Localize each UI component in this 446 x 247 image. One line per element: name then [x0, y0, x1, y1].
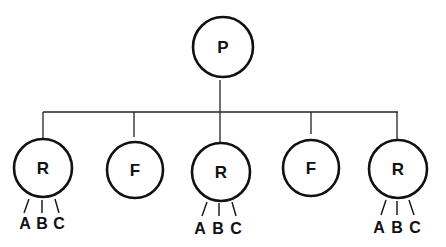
leaf-stub-line [409, 200, 414, 215]
child-node-label: R [215, 163, 227, 182]
child-node-f-1: F [107, 142, 163, 198]
leaf-group: A B C [19, 199, 65, 232]
child-node-label: F [306, 159, 316, 178]
child-node-label: F [130, 161, 140, 180]
leaf-stub-line [24, 199, 29, 213]
leaf-group: A B C [373, 200, 421, 236]
child-node-r-1: R A B C [14, 139, 72, 232]
tree-svg: P R A B C F R [0, 0, 446, 247]
leaf-label-c: C [409, 219, 421, 236]
leaf-stub-line [381, 200, 386, 215]
root-node-p: P [193, 17, 253, 77]
leaf-stub-line [232, 202, 236, 216]
leaf-label-a: A [194, 220, 206, 237]
leaf-label-c: C [230, 220, 242, 237]
leaf-stub-line [202, 202, 207, 216]
leaf-group: A B C [194, 202, 242, 237]
leaf-label-b: B [212, 220, 224, 237]
connectors [43, 80, 398, 143]
child-node-label: R [392, 160, 404, 179]
leaf-label-a: A [19, 215, 31, 232]
child-node-r-2: R A B C [192, 143, 250, 237]
child-nodes: R A B C F R A [14, 139, 427, 237]
child-node-r-3: R A B C [369, 140, 427, 236]
root-node-label: P [217, 38, 228, 57]
leaf-stub-line [55, 199, 59, 213]
child-node-f-2: F [283, 140, 339, 196]
child-connector-lines [43, 112, 397, 143]
child-node-label: R [37, 159, 49, 178]
leaf-label-c: C [53, 215, 65, 232]
org-tree-diagram: P R A B C F R [0, 0, 446, 247]
leaf-label-b: B [391, 219, 403, 236]
leaf-label-a: A [373, 219, 385, 236]
leaf-label-b: B [36, 215, 48, 232]
